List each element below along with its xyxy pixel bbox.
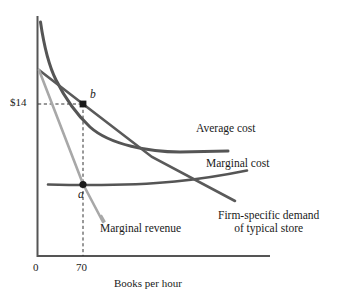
point-label-b: b (90, 88, 96, 101)
point-label-a: a (78, 188, 84, 201)
economics-figure: $14 0 70 Books per hour b a Average cost… (0, 0, 338, 297)
y-tick-label-price: $14 (10, 96, 27, 109)
average-cost-label: Average cost (196, 122, 256, 135)
marginal-revenue-label: Marginal revenue (100, 222, 181, 235)
demand-label-line1: Firm-specific demand (218, 209, 319, 222)
x-tick-label-70: 70 (76, 261, 87, 274)
demand-curve (39, 70, 235, 201)
x-tick-label-0: 0 (33, 261, 39, 274)
marginal-cost-label: Marginal cost (206, 157, 269, 170)
point-b-marker (80, 101, 87, 108)
x-axis-title: Books per hour (114, 277, 182, 290)
demand-label-line2: of typical store (218, 222, 319, 235)
demand-label: Firm-specific demand of typical store (218, 209, 319, 235)
chart-canvas (0, 0, 338, 297)
